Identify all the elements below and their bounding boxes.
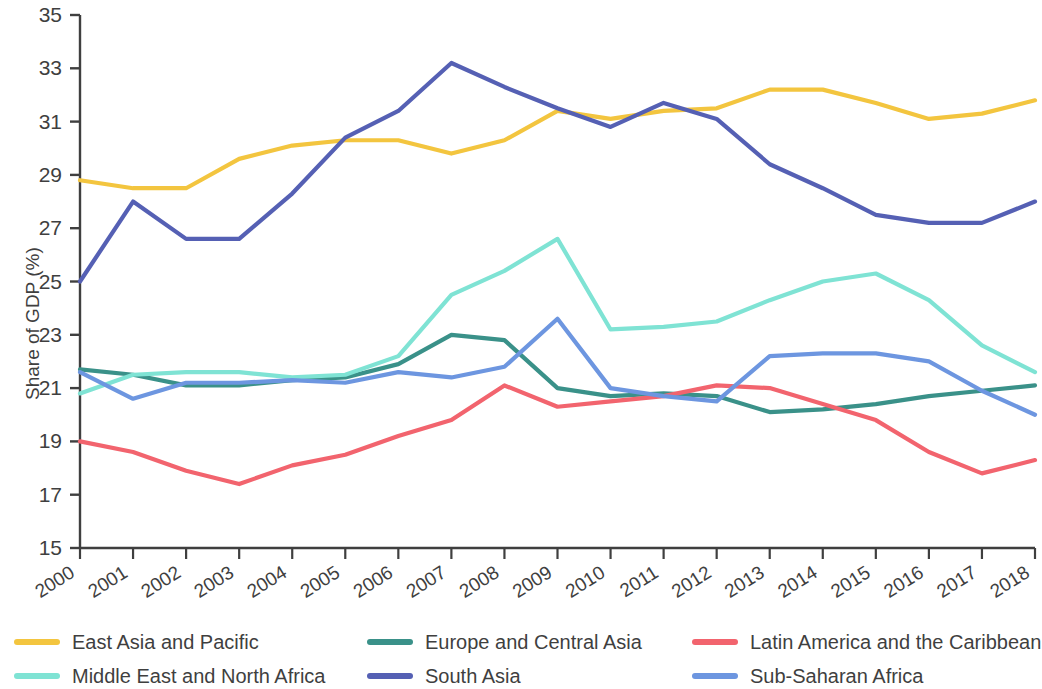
data-series-group: [80, 63, 1035, 484]
legend-swatch-latin-america-and-the-caribbean: [692, 639, 738, 645]
legend-label-east-asia-and-pacific: East Asia and Pacific: [72, 632, 259, 652]
legend-item-europe-and-central-asia[interactable]: Europe and Central Asia: [367, 632, 642, 652]
legend-swatch-middle-east-and-north-africa: [14, 673, 60, 679]
x-tick-label: 2015: [827, 562, 874, 602]
series-line-south-asia: [80, 63, 1035, 282]
legend-swatch-south-asia: [367, 673, 413, 679]
x-axis-ticks: 2000200120022003200420052006200720082009…: [31, 548, 1035, 602]
y-tick-label: 27: [39, 216, 62, 239]
x-tick-label: 2000: [31, 562, 78, 602]
x-tick-label: 2010: [562, 562, 609, 602]
legend-label-latin-america-and-the-caribbean: Latin America and the Caribbean: [750, 632, 1041, 652]
legend-item-latin-america-and-the-caribbean[interactable]: Latin America and the Caribbean: [692, 632, 1041, 652]
x-tick-label: 2002: [137, 562, 184, 602]
x-tick-label: 2014: [774, 561, 821, 601]
x-tick-label: 2012: [668, 562, 715, 602]
legend-label-south-asia: South Asia: [425, 666, 521, 686]
y-tick-label: 33: [39, 56, 62, 79]
legend-swatch-sub-saharan-africa: [692, 673, 738, 679]
x-tick-label: 2011: [616, 562, 662, 601]
legend-label-sub-saharan-africa: Sub-Saharan Africa: [750, 666, 923, 686]
legend-item-east-asia-and-pacific[interactable]: East Asia and Pacific: [14, 632, 259, 652]
y-tick-label: 31: [39, 110, 62, 133]
x-tick-label: 2008: [456, 562, 503, 602]
y-tick-label: 29: [39, 163, 62, 186]
y-tick-label: 35: [39, 3, 62, 26]
legend-label-europe-and-central-asia: Europe and Central Asia: [425, 632, 642, 652]
y-tick-label: 19: [39, 429, 62, 452]
chart-plot-area: 1517192123252729313335 20002001200220032…: [0, 0, 1042, 628]
legend-item-south-asia[interactable]: South Asia: [367, 666, 521, 686]
legend-item-middle-east-and-north-africa[interactable]: Middle East and North Africa: [14, 666, 325, 686]
x-tick-label: 2016: [880, 562, 927, 602]
line-chart: Share of GDP (%) 1517192123252729313335 …: [0, 0, 1042, 689]
x-tick-label: 2004: [243, 561, 290, 601]
x-tick-label: 2018: [986, 562, 1033, 602]
x-tick-label: 2006: [349, 562, 396, 602]
y-tick-label: 17: [39, 483, 62, 506]
y-axis-title: Share of GDP (%): [22, 247, 44, 400]
legend-swatch-east-asia-and-pacific: [14, 639, 60, 645]
y-tick-label: 15: [39, 536, 62, 559]
legend-item-sub-saharan-africa[interactable]: Sub-Saharan Africa: [692, 666, 923, 686]
x-tick-label: 2005: [296, 562, 343, 602]
x-tick-label: 2017: [933, 562, 980, 602]
legend-label-middle-east-and-north-africa: Middle East and North Africa: [72, 666, 325, 686]
x-tick-label: 2001: [84, 562, 131, 602]
chart-legend: East Asia and Pacific Europe and Central…: [0, 628, 1042, 689]
x-tick-label: 2003: [190, 562, 237, 602]
y-axis-ticks: 1517192123252729313335: [39, 3, 80, 559]
series-line-middle-east-and-north-africa: [80, 239, 1035, 394]
legend-swatch-europe-and-central-asia: [367, 639, 413, 645]
x-tick-label: 2013: [721, 562, 768, 602]
x-tick-label: 2009: [509, 562, 556, 602]
x-tick-label: 2007: [403, 562, 450, 602]
series-line-east-asia-and-pacific: [80, 90, 1035, 189]
